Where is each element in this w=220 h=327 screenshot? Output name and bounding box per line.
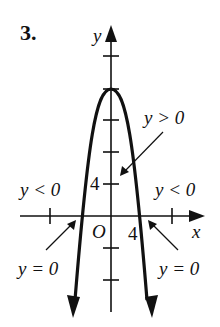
origin-label: O xyxy=(92,221,106,242)
annotation-y-positive: y > 0 xyxy=(142,107,185,128)
curve-left-arrow-icon xyxy=(67,295,80,318)
graph-figure: 3. y x O 4 4 y > 0 y < 0 y < 0 y = 0 y xyxy=(0,0,220,327)
x-axis xyxy=(20,208,205,224)
annotation-y-zero-left: y = 0 xyxy=(16,258,59,279)
annotation-y-negative-left: y < 0 xyxy=(18,179,61,200)
y-tick-label: 4 xyxy=(90,173,100,194)
y-axis-arrow-icon xyxy=(105,25,117,42)
annotation-y-zero-right-pointer xyxy=(152,224,178,250)
annotation-y-negative-right: y < 0 xyxy=(153,179,196,200)
x-axis-label: x xyxy=(191,221,201,242)
curve-right-arrow-icon xyxy=(145,295,158,318)
y-axis xyxy=(103,25,119,312)
x-tick-label: 4 xyxy=(128,223,138,244)
pointer-arrow-icon xyxy=(148,220,157,230)
y-axis-label: y xyxy=(91,25,102,46)
annotation-y-zero-right: y = 0 xyxy=(157,258,200,279)
annotation-y-zero-left-pointer xyxy=(46,224,72,250)
pointer-arrow-icon xyxy=(67,220,76,230)
problem-number: 3. xyxy=(20,20,37,45)
